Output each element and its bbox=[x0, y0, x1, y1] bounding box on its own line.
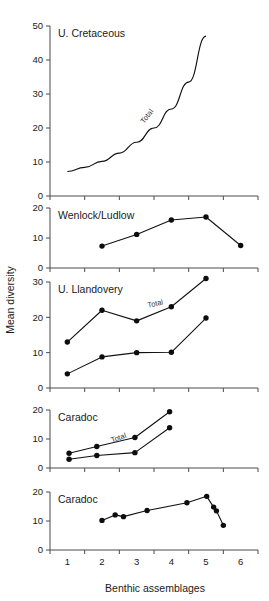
data-point bbox=[134, 232, 139, 237]
y-tick-label: 20 bbox=[32, 486, 43, 497]
panel-title: Wenlock/Ludlow bbox=[58, 209, 135, 221]
panel-title: U. Llandovery bbox=[58, 283, 124, 295]
y-tick-label: 10 bbox=[32, 433, 43, 444]
y-tick-label: 10 bbox=[32, 156, 43, 167]
y-tick-label: 0 bbox=[38, 544, 43, 555]
data-point bbox=[112, 512, 117, 517]
y-tick-label: 0 bbox=[38, 462, 43, 473]
panel-0: 01020304050U. CretaceousTotal bbox=[32, 20, 258, 201]
data-point bbox=[132, 435, 137, 440]
panel-axis-line bbox=[50, 26, 258, 196]
panel-title: U. Cretaceous bbox=[58, 27, 125, 39]
data-point bbox=[203, 214, 208, 219]
series-curve bbox=[67, 36, 206, 171]
data-point bbox=[203, 276, 208, 281]
data-point bbox=[134, 318, 139, 323]
panel-axis-line bbox=[50, 282, 258, 388]
data-point bbox=[169, 217, 174, 222]
y-tick-label: 0 bbox=[38, 382, 43, 393]
series-inline-label: Total bbox=[147, 297, 165, 309]
y-tick-label: 10 bbox=[32, 347, 43, 358]
panel-3: 01020CaradocTotal bbox=[32, 404, 258, 473]
data-point bbox=[132, 450, 137, 455]
data-point bbox=[99, 354, 104, 359]
y-tick-label: 40 bbox=[32, 54, 43, 65]
x-tick-label: 2 bbox=[99, 556, 104, 567]
data-point bbox=[167, 425, 172, 430]
y-tick-label: 10 bbox=[32, 232, 43, 243]
panel-2: 0102030U. LlandoveryTotal bbox=[32, 276, 258, 394]
data-point bbox=[144, 508, 149, 513]
x-tick-label: 1 bbox=[65, 556, 70, 567]
data-point bbox=[94, 453, 99, 458]
data-point bbox=[134, 350, 139, 355]
data-point bbox=[99, 243, 104, 248]
data-point bbox=[65, 371, 70, 376]
data-point bbox=[167, 409, 172, 414]
series-line bbox=[67, 318, 206, 374]
x-tick-label: 3 bbox=[134, 556, 139, 567]
data-point bbox=[238, 243, 243, 248]
panel-title: Caradoc bbox=[58, 411, 98, 423]
data-point bbox=[99, 308, 104, 313]
y-tick-label: 20 bbox=[32, 312, 43, 323]
data-point bbox=[99, 518, 104, 523]
series-inline-label: Total bbox=[109, 431, 127, 445]
y-tick-label: 20 bbox=[32, 122, 43, 133]
y-tick-label: 0 bbox=[38, 262, 43, 273]
y-tick-label: 10 bbox=[32, 515, 43, 526]
data-point bbox=[221, 523, 226, 528]
y-axis-title: Mean diversity bbox=[4, 265, 16, 333]
panel-4: 01020123456Caradoc bbox=[32, 486, 258, 567]
figure-container: Mean diversity 01020304050U. CretaceousT… bbox=[0, 0, 269, 601]
series-line bbox=[102, 496, 223, 525]
series-inline-label: Total bbox=[138, 107, 155, 125]
multi-panel-chart: Mean diversity 01020304050U. CretaceousT… bbox=[0, 0, 269, 601]
data-point bbox=[65, 339, 70, 344]
y-tick-label: 50 bbox=[32, 20, 43, 31]
data-point bbox=[121, 514, 126, 519]
data-point bbox=[214, 508, 219, 513]
y-tick-label: 20 bbox=[32, 404, 43, 415]
y-tick-label: 0 bbox=[38, 190, 43, 201]
data-point bbox=[203, 315, 208, 320]
panel-title: Caradoc bbox=[58, 493, 98, 505]
panel-1: 01020Wenlock/Ludlow bbox=[32, 202, 258, 273]
y-axis-title-text: Mean diversity bbox=[4, 265, 16, 333]
data-point bbox=[184, 500, 189, 505]
y-tick-label: 30 bbox=[32, 88, 43, 99]
x-tick-label: 6 bbox=[238, 556, 243, 567]
y-tick-label: 30 bbox=[32, 276, 43, 287]
data-point bbox=[204, 494, 209, 499]
data-point bbox=[66, 457, 71, 462]
data-point bbox=[66, 451, 71, 456]
data-point bbox=[169, 304, 174, 309]
y-tick-label: 20 bbox=[32, 202, 43, 213]
data-point bbox=[94, 444, 99, 449]
data-point bbox=[169, 350, 174, 355]
panels-group: 01020304050U. CretaceousTotal01020Wenloc… bbox=[32, 20, 258, 567]
x-axis-title: Benthic assemblages bbox=[105, 582, 205, 594]
x-axis-title-text: Benthic assemblages bbox=[105, 582, 205, 594]
x-tick-label: 5 bbox=[203, 556, 208, 567]
x-tick-label: 4 bbox=[169, 556, 174, 567]
